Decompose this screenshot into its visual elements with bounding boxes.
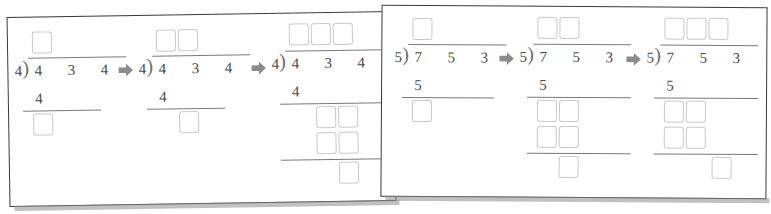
quotient-box[interactable] xyxy=(156,29,176,51)
dividend-digit: 5 xyxy=(696,51,710,66)
division-bracket-icon: ) xyxy=(527,47,534,62)
worksheet-panel-left: 4 ) 4 3 4 4 4 ) 4 3 4 4 4 ) 4 3 4 xyxy=(7,11,397,207)
division-bracket-icon: ) xyxy=(22,61,29,76)
division-vinculum xyxy=(408,44,506,46)
dividend-digit: 7 xyxy=(536,50,550,65)
division-bracket-icon: ) xyxy=(146,59,153,74)
subtraction-rule xyxy=(527,97,631,99)
arrow-right-icon xyxy=(499,52,514,66)
partial-product-box[interactable] xyxy=(686,127,706,149)
division-bracket-icon: ) xyxy=(654,47,661,62)
dividend-digit: 4 xyxy=(354,55,368,70)
remainder-box[interactable] xyxy=(412,100,432,122)
subtraction-rule xyxy=(402,97,494,99)
dividend-digit: 5 xyxy=(569,50,583,65)
quotient-box[interactable] xyxy=(537,17,557,39)
dividend-digit: 7 xyxy=(411,50,425,65)
division-vinculum xyxy=(28,56,126,59)
dividend-digit: 4 xyxy=(221,60,235,75)
panel-shadow xyxy=(385,196,769,203)
arrow-right-icon xyxy=(626,52,641,66)
quotient-box[interactable] xyxy=(664,18,684,40)
dividend-digit: 3 xyxy=(729,51,743,66)
partial-product: 4 xyxy=(289,84,303,99)
dividend-digit: 3 xyxy=(321,56,335,71)
subtraction-rule xyxy=(147,108,225,110)
division-bracket-icon: ) xyxy=(402,47,409,62)
dividend-digit: 7 xyxy=(663,51,677,66)
final-remainder-box[interactable] xyxy=(712,157,732,179)
final-remainder-box[interactable] xyxy=(559,156,579,178)
quotient-box[interactable] xyxy=(559,17,579,39)
dividend-digit: 4 xyxy=(155,62,169,77)
subtraction-rule xyxy=(654,97,758,99)
remainder-box[interactable] xyxy=(316,106,336,128)
remainder-box[interactable] xyxy=(33,113,53,135)
bring-down-box[interactable] xyxy=(559,100,579,122)
subtraction-rule xyxy=(527,153,631,155)
partial-product-box[interactable] xyxy=(537,126,557,148)
dividend-digit: 4 xyxy=(31,63,45,78)
bring-down-box[interactable] xyxy=(338,106,358,128)
worksheet-panel-right: 5 ) 7 5 3 5 5 ) 7 5 3 5 5 xyxy=(380,5,767,199)
dividend-digit: 4 xyxy=(288,56,302,71)
quotient-box[interactable] xyxy=(311,23,331,45)
division-bracket-icon: ) xyxy=(279,54,286,69)
quotient-box[interactable] xyxy=(178,29,198,51)
quotient-box[interactable] xyxy=(412,18,432,40)
partial-product-box[interactable] xyxy=(559,126,579,148)
division-vinculum xyxy=(533,44,631,46)
partial-product-box[interactable] xyxy=(664,127,684,149)
partial-product: 5 xyxy=(536,78,550,93)
subtraction-rule xyxy=(23,110,101,112)
quotient-box[interactable] xyxy=(32,31,52,53)
final-remainder-box[interactable] xyxy=(339,162,359,184)
partial-product-box[interactable] xyxy=(316,132,336,154)
remainder-box[interactable] xyxy=(179,111,199,133)
partial-product: 4 xyxy=(156,89,170,104)
dividend-digit: 3 xyxy=(602,50,616,65)
quotient-box[interactable] xyxy=(686,18,706,40)
quotient-box[interactable] xyxy=(289,23,309,45)
division-vinculum xyxy=(660,45,758,47)
division-vinculum xyxy=(285,49,383,52)
subtraction-rule xyxy=(280,102,384,105)
quotient-box[interactable] xyxy=(708,18,728,40)
remainder-box[interactable] xyxy=(664,101,684,123)
partial-product: 5 xyxy=(663,79,677,94)
partial-product: 4 xyxy=(32,91,46,106)
dividend-digit: 5 xyxy=(444,50,458,65)
partial-product-box[interactable] xyxy=(338,132,358,154)
dividend-digit: 3 xyxy=(188,61,202,76)
dividend-digit: 3 xyxy=(64,63,78,78)
quotient-box[interactable] xyxy=(333,23,353,45)
subtraction-rule xyxy=(654,153,758,155)
arrow-right-icon xyxy=(118,63,133,77)
division-vinculum xyxy=(152,54,250,57)
dividend-digit: 3 xyxy=(477,50,491,65)
subtraction-rule xyxy=(281,158,385,161)
panel-shadow xyxy=(14,200,399,211)
remainder-box[interactable] xyxy=(537,100,557,122)
arrow-right-icon xyxy=(251,61,266,75)
bring-down-box[interactable] xyxy=(686,101,706,123)
dividend-digit: 4 xyxy=(97,62,111,77)
partial-product: 5 xyxy=(411,78,425,93)
